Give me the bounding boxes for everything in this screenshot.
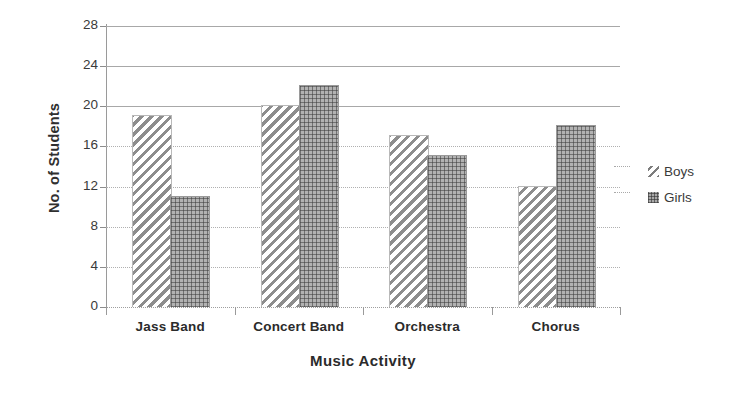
- y-tick-label: 8: [58, 218, 98, 233]
- category-tick: [106, 307, 107, 315]
- y-tick-label: 24: [58, 57, 98, 72]
- legend-item-boys[interactable]: Boys: [648, 158, 694, 184]
- legend-item-girls[interactable]: Girls: [648, 184, 694, 210]
- y-tick-label: 28: [58, 17, 98, 32]
- legend-label-girls: Girls: [664, 190, 692, 205]
- y-tick-mark: [100, 66, 106, 67]
- legend-label-boys: Boys: [664, 164, 694, 179]
- category-tick: [492, 307, 493, 315]
- category-label-chorus: Chorus: [492, 319, 621, 334]
- y-tick-label: 0: [58, 298, 98, 313]
- legend-connector: [614, 166, 630, 167]
- gridline: [106, 146, 620, 147]
- category-label-concert-band: Concert Band: [235, 319, 364, 334]
- bar-boys-jass-band[interactable]: [132, 115, 172, 307]
- y-tick-mark: [100, 26, 106, 27]
- category-tick: [363, 307, 364, 315]
- bar-boys-orchestra[interactable]: [389, 135, 429, 307]
- chart-legend: Boys Girls: [648, 158, 694, 210]
- dotted-square-swatch-icon: [648, 192, 659, 203]
- y-tick-label: 16: [58, 137, 98, 152]
- y-tick-mark: [100, 267, 106, 268]
- bar-girls-jass-band[interactable]: [170, 196, 210, 307]
- y-tick-label: 12: [58, 178, 98, 193]
- bar-girls-chorus[interactable]: [556, 125, 596, 307]
- legend-connector: [614, 192, 630, 193]
- category-label-orchestra: Orchestra: [363, 319, 492, 334]
- ghost-partial-title: [150, 0, 480, 9]
- bar-boys-concert-band[interactable]: [261, 105, 301, 307]
- plot-area: [106, 26, 620, 307]
- diagonal-line-swatch-icon: [648, 166, 659, 177]
- y-tick-mark: [100, 187, 106, 188]
- y-tick-mark: [100, 106, 106, 107]
- y-tick-label: 4: [58, 258, 98, 273]
- x-axis-title: Music Activity: [106, 352, 620, 369]
- bar-girls-orchestra[interactable]: [427, 155, 467, 307]
- bar-girls-concert-band[interactable]: [299, 85, 339, 307]
- category-tick: [620, 307, 621, 315]
- gridline: [106, 66, 620, 67]
- y-tick-mark: [100, 227, 106, 228]
- category-tick: [235, 307, 236, 315]
- y-tick-label: 20: [58, 97, 98, 112]
- gridline: [106, 106, 620, 107]
- bar-chart: No. of Students 0481216202428 Jass BandC…: [0, 0, 729, 393]
- category-label-jass-band: Jass Band: [106, 319, 235, 334]
- bar-boys-chorus[interactable]: [518, 186, 558, 307]
- gridline: [106, 26, 620, 27]
- y-tick-mark: [100, 146, 106, 147]
